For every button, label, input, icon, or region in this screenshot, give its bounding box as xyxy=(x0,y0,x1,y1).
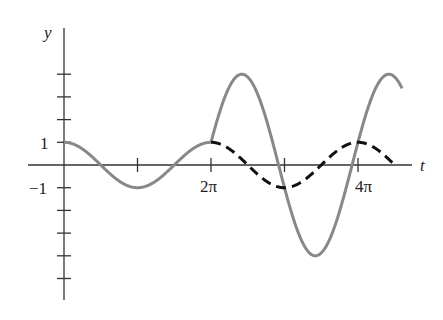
y-tick-label-minus-1: −1 xyxy=(29,179,47,198)
x-tick-label-4pi: 4π xyxy=(355,177,373,196)
y-axis-label: y xyxy=(42,23,52,42)
x-tick-label-2pi: 2π xyxy=(200,177,218,196)
axes xyxy=(28,28,412,300)
y-tick-label-1: 1 xyxy=(40,134,49,153)
chart: y t 1 −1 2π 4π xyxy=(0,0,443,320)
t-axis-label: t xyxy=(420,156,426,175)
